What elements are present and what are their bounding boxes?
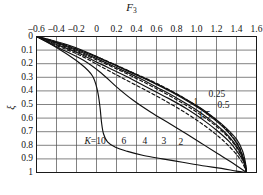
plot-canvas xyxy=(0,0,263,195)
chart-figure: F3 ξ –0.6–0.4–0.200.20.40.60.81.01.21.41… xyxy=(0,0,263,195)
gridlines xyxy=(37,37,257,173)
